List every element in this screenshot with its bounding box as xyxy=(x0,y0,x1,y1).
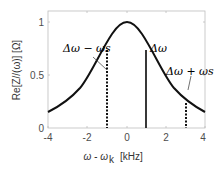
annotation-arrow-plus xyxy=(188,76,191,90)
x-tick-label: 4 xyxy=(200,132,206,143)
y-tick-label: 1 xyxy=(38,17,44,28)
x-tick-label: 2 xyxy=(163,132,169,143)
x-tick-label: 0 xyxy=(124,132,130,143)
annotation-delta-omega-plus: Δω + ωs xyxy=(165,65,214,78)
y-tick-label: 0.5 xyxy=(30,70,44,81)
y-axis-label: Re[Z//(ω)] [Ω] xyxy=(11,40,22,101)
x-tick-label: -4 xyxy=(44,132,53,143)
x-axis-label-main: ω - ω xyxy=(84,151,109,162)
annotation-delta-omega: Δω xyxy=(149,42,167,55)
chart: -4 -2 0 2 4 0 0.5 1 Re[Z//(ω)] [Ω] ω - ω… xyxy=(0,0,218,172)
y-tick-label: 0 xyxy=(38,123,44,134)
x-axis-label-sub: k xyxy=(109,154,115,165)
x-tick-label: -2 xyxy=(83,132,92,143)
x-axis-label: ω - ω k [kHz] xyxy=(84,151,143,165)
x-axis-label-unit: [kHz] xyxy=(120,151,143,162)
annotation-delta-omega-minus: Δω − ωs xyxy=(62,42,111,55)
